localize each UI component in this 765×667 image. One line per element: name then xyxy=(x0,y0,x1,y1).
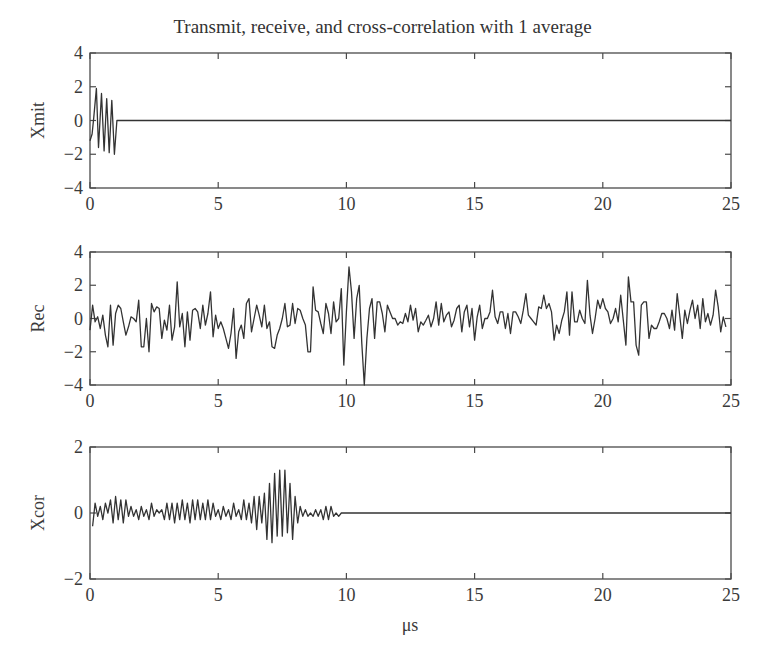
x-tick-label: 0 xyxy=(86,585,95,605)
y-tick-label: −2 xyxy=(64,342,83,362)
y-tick-label: −4 xyxy=(64,178,83,198)
y-axis-label: Rec xyxy=(28,304,48,332)
x-tick-label: 5 xyxy=(214,391,223,411)
signal-line xyxy=(90,267,726,385)
y-tick-label: 0 xyxy=(74,111,83,131)
y-tick-label: 4 xyxy=(74,242,83,262)
y-tick-label: 2 xyxy=(74,275,83,295)
subplot-xcor: 0510152025−202Xcor xyxy=(28,437,740,605)
y-tick-label: 4 xyxy=(74,43,83,63)
subplot-xmit: 0510152025−4−2024Xmit xyxy=(28,43,740,214)
x-tick-label: 25 xyxy=(722,585,740,605)
x-tick-label: 15 xyxy=(466,194,484,214)
y-tick-label: 0 xyxy=(74,503,83,523)
x-tick-label: 5 xyxy=(214,194,223,214)
figure: 0510152025−4−2024Xmit 0510152025−4−2024R… xyxy=(0,0,765,667)
y-tick-label: 2 xyxy=(74,437,83,457)
y-tick-label: −2 xyxy=(64,569,83,589)
x-tick-label: 15 xyxy=(466,585,484,605)
y-tick-label: 0 xyxy=(74,309,83,329)
x-tick-label: 20 xyxy=(594,391,612,411)
x-tick-label: 0 xyxy=(86,194,95,214)
y-tick-label: 2 xyxy=(74,77,83,97)
subplot-rec: 0510152025−4−2024Rec xyxy=(28,242,740,411)
y-axis-label: Xcor xyxy=(28,495,48,531)
x-tick-label: 20 xyxy=(594,194,612,214)
signal-line xyxy=(93,470,731,543)
x-tick-label: 0 xyxy=(86,391,95,411)
x-tick-label: 15 xyxy=(466,391,484,411)
x-tick-label: 25 xyxy=(722,194,740,214)
y-tick-label: −2 xyxy=(64,144,83,164)
x-tick-label: 5 xyxy=(214,585,223,605)
x-tick-label: 10 xyxy=(337,391,355,411)
y-tick-label: −4 xyxy=(64,375,83,395)
y-axis-label: Xmit xyxy=(28,102,48,139)
x-tick-label: 20 xyxy=(594,585,612,605)
x-tick-label: 10 xyxy=(337,585,355,605)
signal-line xyxy=(90,88,731,154)
x-tick-label: 10 xyxy=(337,194,355,214)
x-tick-label: 25 xyxy=(722,391,740,411)
x-axis-label: μs xyxy=(402,615,419,635)
